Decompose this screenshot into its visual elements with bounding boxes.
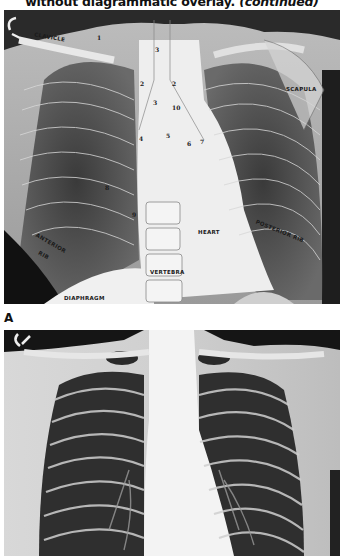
label-scapula: SCAPULA <box>286 86 317 92</box>
caption-continued: (continued) <box>239 0 319 9</box>
xray-image-a <box>4 10 340 304</box>
marker-3-top: 3 <box>155 46 159 53</box>
marker-2-right: 2 <box>172 80 176 87</box>
caption-text: without diagrammatic overlay. <box>25 0 235 9</box>
panel-label-a: A <box>4 311 13 325</box>
marker-7: 7 <box>200 138 204 145</box>
marker-5: 5 <box>166 132 170 139</box>
figure-caption: without diagrammatic overlay. (continued… <box>0 0 344 9</box>
radiograph-with-overlay: CLAVICLE SCAPULA ANTERIOR RIB POSTERIOR … <box>4 10 340 304</box>
radiograph-without-overlay <box>4 330 340 556</box>
marker-2-left: 2 <box>140 80 144 87</box>
marker-1: 1 <box>97 34 101 41</box>
label-heart: HEART <box>198 229 220 235</box>
marker-9: 9 <box>132 211 136 218</box>
marker-8: 8 <box>105 184 109 191</box>
label-vertebra: VERTEBRA <box>150 269 185 275</box>
marker-4: 4 <box>139 135 143 142</box>
label-diaphragm: DIAPHRAGM <box>64 295 105 301</box>
marker-3: 3 <box>153 99 157 106</box>
marker-6: 6 <box>187 140 191 147</box>
xray-image-b <box>4 330 340 556</box>
marker-10: 10 <box>172 104 180 111</box>
